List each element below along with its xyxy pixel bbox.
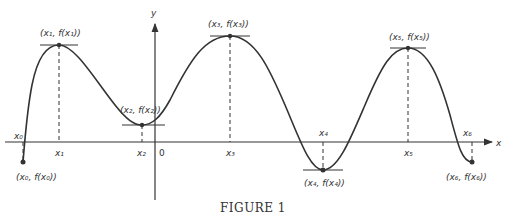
tick-label-x4: x₄ <box>318 128 328 138</box>
y-axis-label: y <box>150 8 157 18</box>
function-extrema-diagram: x y 0 x₀ x₁ x₂ x₃ x₄ x₅ x₆ (x₀, f(x₀)) (… <box>0 0 506 218</box>
origin-label: 0 <box>159 148 165 158</box>
point-label-x6: (x₆, f(x₆)) <box>446 172 487 182</box>
point-label-x3: (x₃, f(x₃)) <box>208 19 249 29</box>
x-axis-label: x <box>495 138 502 148</box>
point-label-x1: (x₁, f(x₁)) <box>40 28 81 38</box>
figure-caption: FIGURE 1 <box>220 201 286 215</box>
tick-label-x1: x₁ <box>54 148 64 158</box>
point-label-x5: (x₅, f(x₅)) <box>389 32 430 42</box>
point-label-x2: (x₂, f(x₂)) <box>120 105 161 115</box>
tick-label-x3: x₃ <box>225 148 235 158</box>
tick-label-x6: x₆ <box>462 128 472 138</box>
point-label-x0: (x₀, f(x₀)) <box>16 172 57 182</box>
tick-label-x0: x₀ <box>13 131 23 141</box>
tick-label-x5: x₅ <box>403 148 413 158</box>
tick-label-x2: x₂ <box>136 148 146 158</box>
point-label-x4: (x₄, f(x₄)) <box>304 178 345 188</box>
